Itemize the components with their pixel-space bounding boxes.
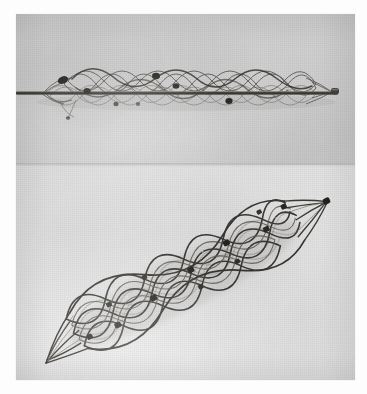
catheter-tip-highlight xyxy=(332,89,338,91)
catheter-highlight xyxy=(16,91,338,92)
loose-wire-end-bead xyxy=(66,116,70,119)
figure-root xyxy=(0,0,367,394)
photo-plate xyxy=(16,14,355,380)
crimped-stent-artwork xyxy=(16,14,355,165)
panel-expanded-stent xyxy=(16,165,355,380)
image-caption xyxy=(0,0,1,1)
panel-crimped-stent xyxy=(16,14,355,165)
expanded-stent-artwork xyxy=(16,165,355,380)
braided-tube xyxy=(24,172,346,380)
